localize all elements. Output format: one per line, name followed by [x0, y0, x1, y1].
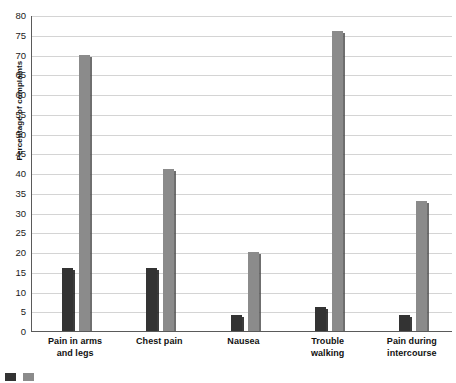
bar-body: [315, 307, 326, 331]
x-axis-category-label-line: Trouble: [285, 336, 371, 348]
bar-shadow: [73, 270, 75, 331]
bar: [79, 55, 90, 332]
y-axis-tick-label: 5: [21, 308, 26, 318]
x-axis-category-label-line: Chest pain: [116, 336, 202, 348]
y-axis-tick-label: 30: [15, 209, 26, 219]
x-axis-category-label-line: Pain during: [369, 336, 455, 348]
y-axis-tick-label: 0: [21, 327, 26, 337]
bar: [146, 268, 157, 331]
y-axis-tick-labels: 80757065605550454035302520151050: [0, 16, 29, 332]
legend-item: [5, 373, 19, 381]
y-axis-tick-label: 25: [15, 229, 26, 239]
bar-body: [231, 315, 242, 331]
x-axis-category-label: Pain in armsand legs: [32, 336, 118, 359]
y-axis-tick-label: 45: [15, 150, 26, 160]
bar-shadow: [90, 57, 92, 332]
y-axis-tick-label: 20: [15, 248, 26, 258]
bar: [332, 31, 343, 331]
bar-group: [146, 16, 174, 331]
bar-shadow: [157, 270, 159, 331]
bar-group: [315, 16, 343, 331]
bar-shadow: [326, 309, 328, 331]
legend-item: [23, 373, 37, 381]
x-axis-category-label-line: Pain in arms: [32, 336, 118, 348]
y-axis-tick-label: 60: [15, 90, 26, 100]
bar-chart: Percentage of complaints 807570656055504…: [0, 0, 456, 383]
x-axis-category-label-line: and legs: [32, 348, 118, 360]
bar-group: [62, 16, 90, 331]
bar: [163, 169, 174, 331]
y-axis-tick-label: 40: [15, 169, 26, 179]
bar-body: [399, 315, 410, 331]
y-axis-tick-label: 15: [15, 268, 26, 278]
bar-shadow: [174, 171, 176, 331]
y-axis-tick-label: 10: [15, 288, 26, 298]
bar: [315, 307, 326, 331]
x-axis-category-label: Pain duringintercourse: [369, 336, 455, 359]
y-axis-tick-label: 80: [15, 11, 26, 21]
bar-shadow: [343, 33, 345, 331]
bar-body: [79, 55, 90, 332]
bar-body: [248, 252, 259, 331]
y-axis-tick-label: 65: [15, 71, 26, 81]
bar-shadow: [427, 203, 429, 331]
y-axis-tick-label: 50: [15, 130, 26, 140]
x-axis-category-label: Troublewalking: [285, 336, 371, 359]
x-axis-category-label-line: Nausea: [201, 336, 287, 348]
bar-body: [163, 169, 174, 331]
y-axis-tick-label: 70: [15, 51, 26, 61]
bar: [62, 268, 73, 331]
legend-color-swatch: [23, 373, 34, 381]
x-axis-category-label: Nausea: [201, 336, 287, 348]
plot-area: [31, 16, 452, 332]
bar: [399, 315, 410, 331]
x-axis-category-labels: Pain in armsand legsChest painNauseaTrou…: [31, 336, 452, 376]
bar-body: [146, 268, 157, 331]
x-axis-category-label-line: intercourse: [369, 348, 455, 360]
bar-body: [332, 31, 343, 331]
bar-body: [416, 201, 427, 331]
chart-legend: [5, 373, 37, 383]
y-axis-tick-label: 55: [15, 110, 26, 120]
bar-group: [231, 16, 259, 331]
bar-body: [62, 268, 73, 331]
bar: [416, 201, 427, 331]
bar-shadow: [259, 254, 261, 331]
bar: [231, 315, 242, 331]
bar-group: [399, 16, 427, 331]
x-axis-category-label-line: walking: [285, 348, 371, 360]
bar-shadow: [410, 317, 412, 331]
legend-color-swatch: [5, 373, 16, 381]
gridline: [32, 332, 452, 333]
y-axis-tick-label: 35: [15, 189, 26, 199]
y-axis-tick-label: 75: [15, 31, 26, 41]
bar-shadow: [242, 317, 244, 331]
bar: [248, 252, 259, 331]
x-axis-category-label: Chest pain: [116, 336, 202, 348]
bars-layer: [32, 16, 452, 331]
